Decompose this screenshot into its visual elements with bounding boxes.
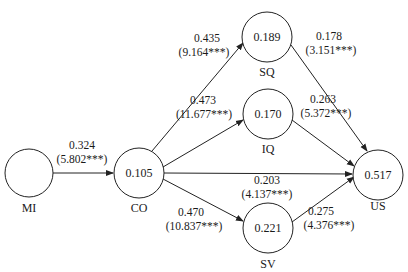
node-sq-label: SQ [259,65,275,79]
edge-label-co-iq: 0.473 (11.677***) [176,94,232,121]
edge-coef: 0.473 [190,94,216,106]
edge-t-value: (3.151***) [306,44,357,57]
node-iq-value: 0.170 [255,107,282,121]
edge-label-co-sq: 0.435 (9.164***) [179,32,230,59]
edge-label-co-sv: 0.470 (10.837***) [166,206,223,233]
node-iq-label: IQ [262,142,275,156]
edge-coef: 0.470 [178,206,204,218]
edge-t-value: (11.677***) [176,108,232,121]
node-co: 0.105 CO [114,148,164,215]
edge-coef: 0.178 [316,30,342,42]
edge-label-sv-us: 0.275 (4.376***) [304,205,355,232]
edge-t-value: (4.137***) [242,188,293,201]
edge-label-iq-us: 0.263 (5.372***) [301,93,352,120]
edge-coef: 0.203 [254,174,280,186]
node-us-label: US [370,199,385,213]
node-sv-label: SV [260,257,276,271]
edge-t-value: (10.837***) [166,220,223,233]
edge-t-value: (4.376***) [304,219,355,232]
node-sv-value: 0.221 [255,221,282,235]
edge-coef: 0.324 [69,139,95,151]
path-diagram: MI 0.105 CO 0.189 SQ 0.170 IQ 0.221 SV 0… [0,0,408,272]
node-mi: MI [5,149,53,215]
edge-t-value: (5.372***) [301,107,352,120]
edge-label-co-us: 0.203 (4.137***) [242,174,293,201]
edge-t-value: (9.164***) [179,46,230,59]
edge-co-iq [163,120,243,167]
edge-coef: 0.275 [308,205,334,217]
edge-label-sq-us: 0.178 (3.151***) [306,30,357,57]
node-sv: 0.221 SV [243,203,293,271]
node-co-label: CO [131,201,148,215]
node-sq-value: 0.189 [254,30,281,44]
node-us: 0.517 US [353,150,403,213]
node-us-value: 0.517 [365,168,392,182]
node-mi-label: MI [22,201,37,215]
edge-iq-us [292,120,354,166]
edge-coef: 0.263 [310,93,336,105]
edge-t-value: (5.802***) [57,153,108,166]
edge-label-mi-co: 0.324 (5.802***) [57,139,108,166]
node-co-value: 0.105 [126,166,153,180]
node-sq: 0.189 SQ [242,12,292,79]
edge-coef: 0.435 [194,32,220,44]
node-iq: 0.170 IQ [243,89,293,156]
